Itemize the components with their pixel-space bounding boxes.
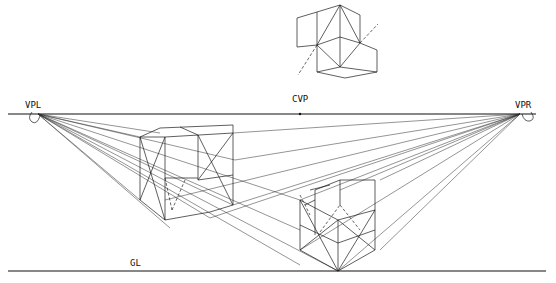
ray-to-vpr: [235, 114, 520, 160]
floating-cube-edge: [340, 5, 360, 43]
left-cube-edge: [180, 127, 198, 135]
ray-to-vpl: [38, 114, 338, 271]
left-cube-hidden-edge: [172, 180, 185, 210]
floating-cube-edge: [297, 45, 317, 47]
floating-cube-axis: [298, 45, 317, 75]
left-cube-hidden-edge: [165, 178, 172, 210]
ray-to-vpr: [233, 114, 520, 205]
ray-to-vpl: [38, 114, 300, 200]
left-cube-edge: [198, 175, 233, 180]
floating-cube-edge: [317, 45, 340, 67]
right-cube-edge: [300, 225, 338, 243]
ray-to-vpr: [233, 114, 520, 133]
left-cube-edge: [160, 125, 233, 128]
floating-cube-edge: [345, 72, 377, 78]
ray-to-vpl: [38, 114, 210, 218]
ray-to-vpr: [300, 114, 520, 250]
perspective-drawing: VPL VPR CVP GL: [0, 0, 556, 283]
vpr-marker-icon: [522, 112, 533, 121]
projection-rays: [38, 114, 520, 271]
right-cube-edge: [338, 250, 375, 271]
label-vpl: VPL: [25, 100, 41, 110]
ray-to-vpr: [380, 114, 520, 250]
ray-to-vpl: [38, 114, 235, 160]
right-cube-hidden-edge: [320, 205, 340, 232]
floating-cube-edge: [317, 72, 345, 78]
left-cube-edge: [165, 212, 210, 220]
floating-cube-edge: [297, 12, 317, 18]
ray-to-vpr: [338, 114, 520, 271]
floating-cube-edge: [340, 67, 377, 72]
ray-to-vpr: [380, 114, 520, 180]
left-cube-edge: [140, 200, 165, 220]
label-cvp: CVP: [292, 94, 309, 104]
label-vpr: VPR: [515, 100, 532, 110]
cube-groups: [140, 5, 378, 271]
right-cube-edge: [338, 210, 375, 271]
floating-cube-edge: [360, 43, 377, 50]
cvp-point: [299, 113, 301, 115]
ray-to-vpr: [300, 114, 520, 200]
left-cube-edge: [198, 133, 233, 180]
floating-cube-axis: [360, 24, 378, 43]
right-cube-edge: [338, 220, 375, 250]
ray-to-vpr: [210, 114, 520, 218]
floating-cube-edge: [317, 67, 340, 72]
ray-to-vpl: [38, 114, 233, 205]
floating-cube-edge: [340, 43, 360, 67]
label-gl: GL: [130, 258, 141, 268]
floating-cube-edge: [317, 37, 340, 45]
left-cube-edge: [198, 135, 233, 205]
ray-to-vpr: [340, 114, 520, 190]
right-cube-edge: [300, 220, 338, 250]
right-cube-hidden-edge: [340, 205, 360, 230]
right-cube-edge: [305, 200, 315, 205]
ray-to-vpr: [165, 114, 520, 200]
